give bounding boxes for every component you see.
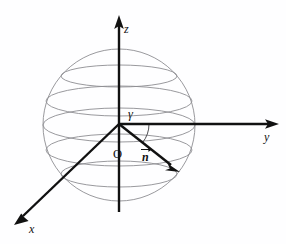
axis-x-arrowhead (14, 214, 29, 226)
origin-label: O (113, 147, 122, 161)
diagram-svg: z y x O γ n (0, 0, 286, 244)
axis-y-group (119, 119, 279, 129)
angle-label-gamma: γ (128, 107, 134, 121)
figure-canvas: z y x O γ n (0, 0, 286, 244)
axis-label-y: y (263, 130, 270, 144)
axis-z-group (114, 15, 124, 212)
vector-n-arrowhead (165, 164, 180, 172)
axis-label-z: z (123, 22, 129, 36)
gamma-arc (143, 124, 150, 143)
vector-label-group: n (141, 148, 151, 164)
angle-arc-group (143, 124, 150, 143)
axis-label-x: x (28, 222, 35, 236)
vector-label-n: n (142, 150, 149, 164)
